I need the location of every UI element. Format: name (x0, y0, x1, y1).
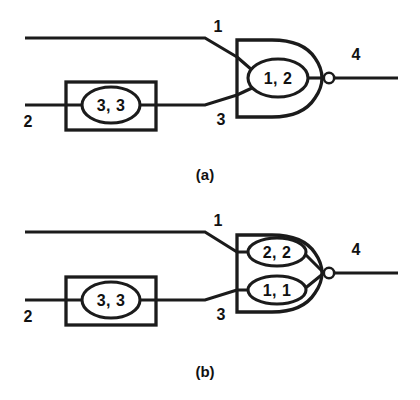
circuit-figure: 3, 3 1, 2 1 2 3 4 (a) (0, 0, 420, 400)
panel-b-gate-node-label-lower: 1, 1 (263, 282, 292, 299)
panel-a-output-bubble-icon (324, 73, 334, 83)
panel-a-gate-node-label: 1, 2 (264, 70, 293, 87)
panel-b-pin-label-1: 1 (214, 212, 223, 229)
panel-a-input3-wire (156, 95, 237, 105)
panel-a-input1-wire (25, 38, 237, 57)
panel-a-pin-label-3: 3 (217, 111, 226, 128)
panel-a-buffer-node-label: 3, 3 (97, 97, 126, 114)
figure-root: 3, 3 1, 2 1 2 3 4 (a) (0, 0, 420, 400)
panel-a-pin-label-2: 2 (24, 113, 33, 130)
panel-b-pin-label-4: 4 (352, 241, 361, 258)
panel-b-caption: (b) (195, 363, 214, 380)
panel-b-buffer-node-label: 3, 3 (97, 292, 126, 309)
panel-b-input1-wire (25, 232, 237, 252)
panel-b-pin-label-2: 2 (24, 308, 33, 325)
panel-a-caption: (a) (196, 166, 214, 183)
panel-a-pin-label-4: 4 (352, 46, 361, 63)
panel-a-pin-label-1: 1 (214, 18, 223, 35)
panel-b: 3, 3 2, 2 1, 1 1 2 3 4 (24, 212, 398, 380)
panel-b-output-bubble-icon (324, 268, 334, 278)
panel-b-input3-wire (156, 290, 237, 300)
panel-b-pin-label-3: 3 (217, 306, 226, 323)
panel-a: 3, 3 1, 2 1 2 3 4 (a) (24, 18, 398, 183)
panel-b-gate-node-label-upper: 2, 2 (263, 244, 292, 261)
